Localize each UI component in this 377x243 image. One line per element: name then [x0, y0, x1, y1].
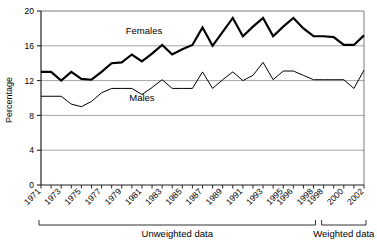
females-series-label: Females: [126, 25, 163, 36]
group-label-weighted: Weighted data: [313, 228, 375, 239]
line-chart-svg: 048121620 197119731975197719791981198319…: [0, 0, 377, 243]
y-axis-title: Percentage: [4, 77, 14, 123]
chart-figure: 048121620 197119731975197719791981198319…: [0, 0, 377, 243]
y-tick-label-20: 20: [25, 6, 35, 16]
group-label-unweighted: Unweighted data: [142, 228, 214, 239]
y-tick-label-4: 4: [29, 145, 34, 155]
y-tick-label-8: 8: [29, 111, 34, 121]
males-series-label: Males: [129, 92, 155, 103]
y-tick-label-12: 12: [25, 76, 35, 86]
y-tick-label-16: 16: [25, 41, 35, 51]
